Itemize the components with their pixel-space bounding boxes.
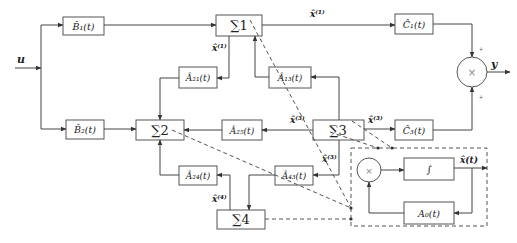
block-b1: B̂₁(t) (63, 17, 104, 35)
svg-text:B̂₂(t): B̂₂(t) (73, 124, 96, 135)
signal-x3-left: x̂⁽³⁾ (289, 115, 305, 125)
wire-a0-to-mult (369, 182, 404, 213)
svg-text:A₀(t): A₀(t) (417, 208, 440, 219)
wire-a24-to-s2 (160, 140, 179, 175)
block-a21: Â₂₁(t) (179, 67, 217, 88)
junction-dot-3 (349, 206, 352, 209)
block-b2: B̂₂(t) (66, 120, 104, 139)
block-sum-3: ∑3 (313, 120, 364, 140)
junction-dot-2 (390, 146, 393, 149)
svg-text:Â₂₁(t): Â₂₁(t) (185, 72, 211, 83)
signal-x1-top: x̂⁽¹⁾ (309, 9, 325, 19)
svg-text:Â₄₃(t): Â₄₃(t) (281, 170, 307, 181)
block-c1: Ĉ₁(t) (395, 14, 433, 34)
block-sum-2: ∑2 (136, 120, 184, 140)
svg-text:×: × (365, 166, 373, 176)
wire-a21-to-s2 (160, 78, 179, 120)
block-a24: Â₂₄(t) (179, 166, 217, 185)
wire-a13-to-s1 (255, 36, 269, 77)
block-sum-4: ∑4 (217, 210, 265, 229)
svg-text:Â₂₄(t): Â₂₄(t) (185, 170, 211, 181)
svg-text:∫: ∫ (426, 164, 431, 175)
wire-feedback-to-a0 (454, 168, 472, 213)
signal-x3-right: x̂⁽³⁾ (367, 115, 383, 125)
junction-dot-4 (349, 217, 352, 220)
signal-x-inner: x̂(t) (459, 155, 478, 165)
block-integrator: ∫ (404, 158, 454, 180)
svg-text:Ĉ₃(t): Ĉ₃(t) (403, 125, 426, 136)
block-sum-1: ∑1 (216, 15, 262, 36)
svg-text:∑4: ∑4 (232, 212, 250, 227)
block-a25: Â₂₅(t) (222, 120, 262, 140)
multiplier-inner: × (357, 158, 381, 182)
signal-x3-down: x̂⁽³⁾ (321, 154, 337, 164)
svg-text:B̂₁(t): B̂₁(t) (71, 21, 94, 32)
svg-text:∑1: ∑1 (230, 18, 248, 33)
svg-text:Â₂₅(t): Â₂₅(t) (229, 125, 255, 136)
input-label: u (17, 53, 25, 66)
signal-x4: x̂⁽⁴⁾ (211, 194, 227, 204)
svg-text:Ĉ₁(t): Ĉ₁(t) (403, 19, 426, 30)
wire-c1-to-mult (433, 24, 472, 57)
plus-sign-top: + (479, 46, 483, 53)
block-c3: Ĉ₃(t) (395, 120, 433, 140)
wire-s4-to-a24 (217, 175, 230, 210)
input-u: u (15, 53, 41, 68)
block-diagram: u B̂₁(t) B̂₂(t) ∑1 x̂⁽¹⁾ x̂⁽¹⁾ Â₂₁(t) Â₁… (0, 0, 517, 243)
block-a43: Â₄₃(t) (275, 166, 313, 185)
junction-dot-1 (376, 146, 379, 149)
block-a13: Â₁₃(t) (269, 67, 311, 88)
svg-text:∑2: ∑2 (151, 123, 169, 138)
wire-s3-to-a13 (311, 77, 339, 120)
wire-c3-to-mult (433, 87, 472, 130)
signal-x1-down: x̂⁽¹⁾ (211, 43, 227, 53)
block-a0: A₀(t) (404, 202, 454, 224)
output-label: y (490, 58, 499, 71)
plus-sign-bottom: + (479, 94, 483, 101)
svg-text:×: × (468, 67, 476, 78)
multiplier-output: × (457, 57, 487, 87)
wire-a43-to-s4 (249, 175, 275, 210)
svg-text:∑3: ∑3 (329, 123, 347, 138)
